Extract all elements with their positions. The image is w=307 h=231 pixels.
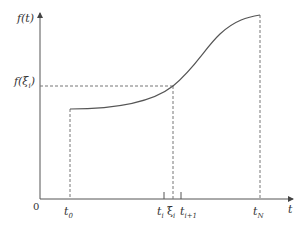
label-tN: tN	[253, 205, 264, 220]
function-diagram: f(t) f(ξi) 0 t0 ti ξi ti+1 tN t	[0, 0, 307, 231]
label-ti: ti	[157, 205, 164, 220]
label-ti1: ti+1	[180, 205, 197, 220]
function-curve	[70, 15, 260, 109]
x-axis-label: t	[288, 203, 293, 216]
f-xi-label: f(ξi)	[13, 75, 35, 90]
y-axis-label: f(t)	[16, 12, 34, 25]
origin-label: 0	[33, 201, 39, 212]
label-xi: ξi	[167, 205, 175, 220]
label-t0: t0	[64, 205, 73, 220]
